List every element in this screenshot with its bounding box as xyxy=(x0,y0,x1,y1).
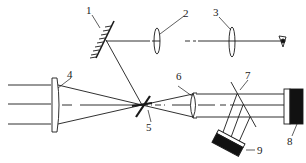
detector-8 xyxy=(284,89,303,124)
label-9: 9 xyxy=(257,144,263,156)
lens-4 xyxy=(52,78,59,132)
label-3: 3 xyxy=(213,6,219,18)
detector-9 xyxy=(212,130,245,156)
label-2: 2 xyxy=(183,7,189,19)
optical-diagram: 1 2 3 4 5 6 7 8 9 xyxy=(0,0,306,163)
label-8: 8 xyxy=(287,135,293,147)
beam-splitter-7 xyxy=(231,82,256,127)
lens-6 xyxy=(191,93,196,118)
label-4: 4 xyxy=(67,68,73,80)
lens-3 xyxy=(229,27,235,57)
mirror-1 xyxy=(90,21,114,58)
converging-beams xyxy=(58,85,142,124)
label-7: 7 xyxy=(245,69,251,81)
label-6: 6 xyxy=(176,70,182,82)
input-beams xyxy=(8,85,51,124)
eye-icon xyxy=(279,36,286,47)
label-1: 1 xyxy=(86,4,92,16)
mirror-to-focus-ray xyxy=(106,40,142,105)
leader-lines xyxy=(58,15,297,150)
label-5: 5 xyxy=(146,121,152,133)
